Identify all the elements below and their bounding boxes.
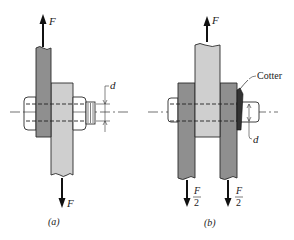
force-label-right-num: F bbox=[235, 185, 243, 196]
force-label-top: F bbox=[211, 14, 219, 26]
figure-a: d F F (a) bbox=[10, 14, 130, 228]
light-plate-middle bbox=[195, 44, 220, 138]
dimension-label-d: d bbox=[110, 79, 116, 91]
cotter-pin bbox=[237, 88, 243, 130]
force-label-top: F bbox=[48, 15, 56, 27]
light-plate bbox=[51, 83, 73, 177]
dimension-label-d: d bbox=[253, 133, 259, 145]
caption-b: (b) bbox=[204, 217, 216, 229]
dark-plate-left bbox=[178, 83, 195, 180]
dark-plate-right bbox=[220, 83, 237, 180]
force-label-bottom: F bbox=[66, 197, 74, 209]
bolt-head bbox=[168, 98, 178, 122]
figure-b: Cotter d F F 2 F 2 (b) bbox=[148, 14, 283, 229]
force-label-right-den: 2 bbox=[236, 197, 241, 208]
bolted-joint-diagram: d F F (a) Cotter bbox=[0, 0, 294, 240]
nut bbox=[73, 97, 86, 130]
bolt-head bbox=[24, 97, 36, 130]
force-label-left-den: 2 bbox=[194, 197, 199, 208]
dark-plate bbox=[36, 47, 51, 138]
caption-a: (a) bbox=[48, 216, 60, 228]
cotter-label: Cotter bbox=[257, 70, 283, 81]
force-label-left-num: F bbox=[193, 185, 201, 196]
